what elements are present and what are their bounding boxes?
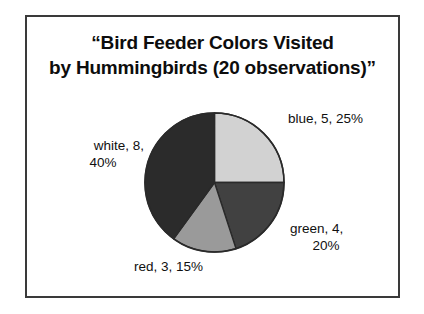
pie-label-green-percent: 20%: [290, 237, 370, 254]
pie-label-white-percent: 40%: [48, 154, 144, 171]
pie-label-white: white, 8, 40%: [48, 137, 144, 171]
pie-chart: [144, 112, 285, 253]
pie-label-blue: blue, 5, 25%: [288, 110, 363, 127]
pie-label-white-text: white, 8,: [48, 137, 144, 154]
pie-label-red-text: red, 3, 15%: [134, 258, 203, 275]
chart-figure: “Bird Feeder Colors Visited by Hummingbi…: [0, 0, 424, 314]
pie-label-green-text: green, 4,: [290, 220, 370, 237]
pie-slice-blue: [215, 113, 285, 183]
chart-title-line-2: by Hummingbirds (20 observations)”: [27, 55, 398, 80]
pie-label-blue-text: blue, 5, 25%: [288, 110, 363, 127]
pie-label-green: green, 4, 20%: [290, 220, 370, 254]
chart-title: “Bird Feeder Colors Visited by Hummingbi…: [27, 30, 398, 80]
chart-title-line-1: “Bird Feeder Colors Visited: [27, 30, 398, 55]
pie-label-red: red, 3, 15%: [134, 258, 203, 275]
